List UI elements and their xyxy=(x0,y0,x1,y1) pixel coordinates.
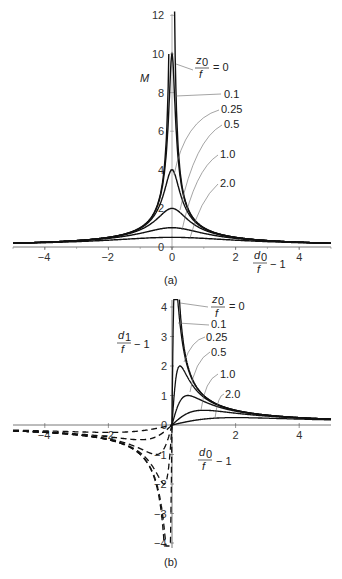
svg-text:0: 0 xyxy=(218,295,224,307)
svg-text:f: f xyxy=(199,68,203,80)
panel-a-label-0.5: 0.5 xyxy=(224,118,239,130)
panel-a-ytick: 0 xyxy=(158,241,164,253)
svg-text:d: d xyxy=(254,249,261,261)
svg-text:1: 1 xyxy=(125,331,131,343)
panel-b-curve-positive xyxy=(172,366,331,425)
panel-a-ytick: 6 xyxy=(158,125,164,137)
svg-text:f: f xyxy=(121,343,125,355)
panel-a-ytick: 12 xyxy=(152,9,164,21)
svg-text:= 0: = 0 xyxy=(229,300,245,312)
panel-a-xtick: 2 xyxy=(233,251,239,263)
panel-a-ytick: 10 xyxy=(152,48,164,60)
panel-a-xtick: −4 xyxy=(38,251,51,263)
panel-b-chart: −4−224−4−3−2−101234 d 1 f − 1 z 0 f = 0 … xyxy=(13,293,331,568)
svg-text:− 1: − 1 xyxy=(270,258,286,270)
panel-b-ytick: 2 xyxy=(161,360,167,372)
panel-a-xtick: 0 xyxy=(169,251,175,263)
panel-a-label-2.0: 2.0 xyxy=(220,177,235,189)
panel-b-label-2.0: 2.0 xyxy=(225,388,240,400)
panel-a-ytick: 8 xyxy=(158,87,164,99)
panel-a-ylabel: M xyxy=(140,72,150,84)
panel-a-label-1.0: 1.0 xyxy=(220,148,235,160)
svg-text:z: z xyxy=(211,293,218,305)
panel-b-ytick: 1 xyxy=(161,390,167,402)
figure: −4−2024024681012 M z 0 f = 0 0.1 0.25 0.… xyxy=(0,0,342,579)
panel-b-label-0.5: 0.5 xyxy=(211,346,226,358)
panel-b-curve-positive xyxy=(172,418,331,425)
panel-a-label-0.25: 0.25 xyxy=(221,103,242,115)
svg-text:0: 0 xyxy=(261,251,267,263)
panel-a-caption: (a) xyxy=(164,274,177,286)
panel-a-xtick: −2 xyxy=(101,251,114,263)
panel-b-label-0.25: 0.25 xyxy=(206,331,227,343)
svg-text:f: f xyxy=(257,263,261,275)
svg-text:z: z xyxy=(195,54,202,66)
svg-text:− 1: − 1 xyxy=(134,338,150,350)
svg-text:0: 0 xyxy=(206,448,212,460)
panel-a-label-0.1: 0.1 xyxy=(224,88,239,100)
panel-a-xtick: 4 xyxy=(296,251,302,263)
svg-text:0: 0 xyxy=(202,56,208,68)
panel-b-xtick: 2 xyxy=(233,429,239,441)
panel-b-caption: (b) xyxy=(164,556,177,568)
panel-b-legend-title: z 0 f = 0 xyxy=(211,293,245,319)
panel-b-ytick: 0 xyxy=(161,419,167,431)
panel-b-ytick: 4 xyxy=(161,301,167,313)
panel-a-xlabel: d 0 f − 1 xyxy=(253,249,286,275)
panel-b-label-1.0: 1.0 xyxy=(220,368,235,380)
panel-b-curve-positive xyxy=(172,300,331,425)
panel-b-label-0.1: 0.1 xyxy=(211,318,226,330)
panel-b-curve-negative xyxy=(13,431,164,546)
svg-text:f: f xyxy=(202,460,206,472)
panel-b-xlabel: d 0 f − 1 xyxy=(198,446,232,472)
panel-a-legend-title: z 0 f = 0 xyxy=(195,54,229,80)
svg-text:− 1: − 1 xyxy=(216,455,232,467)
panel-b-curve-negative xyxy=(13,425,172,546)
svg-text:= 0: = 0 xyxy=(213,61,229,73)
panel-b-xtick: 4 xyxy=(296,429,302,441)
panel-b-ytick: 3 xyxy=(161,331,167,343)
svg-text:d: d xyxy=(199,446,206,458)
panel-b-ylabel: d 1 f − 1 xyxy=(117,329,150,355)
svg-text:d: d xyxy=(118,329,125,341)
panel-a-chart: −4−2024024681012 M z 0 f = 0 0.1 0.25 0.… xyxy=(13,9,331,286)
